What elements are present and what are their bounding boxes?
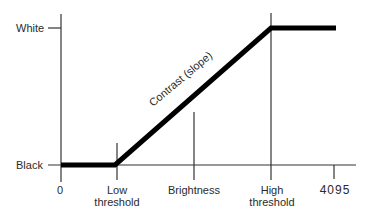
y-label-black: Black [16,159,43,171]
x-label-high-line2: threshold [249,196,294,208]
y-label-white: White [16,22,44,34]
x-label-low-line1: Low [107,184,127,196]
x-label-high-line1: High [261,184,284,196]
x-label-zero: 0 [57,184,63,196]
x-label-max: 4095 [320,183,351,197]
contrast-slope-label: Contrast (slope) [147,49,215,109]
x-label-low-line2: threshold [94,196,139,208]
transfer-function-diagram: White Black Contrast (slope) 0 Low thres… [0,0,373,218]
transfer-curve [61,28,336,165]
x-label-brightness: Brightness [168,184,220,196]
